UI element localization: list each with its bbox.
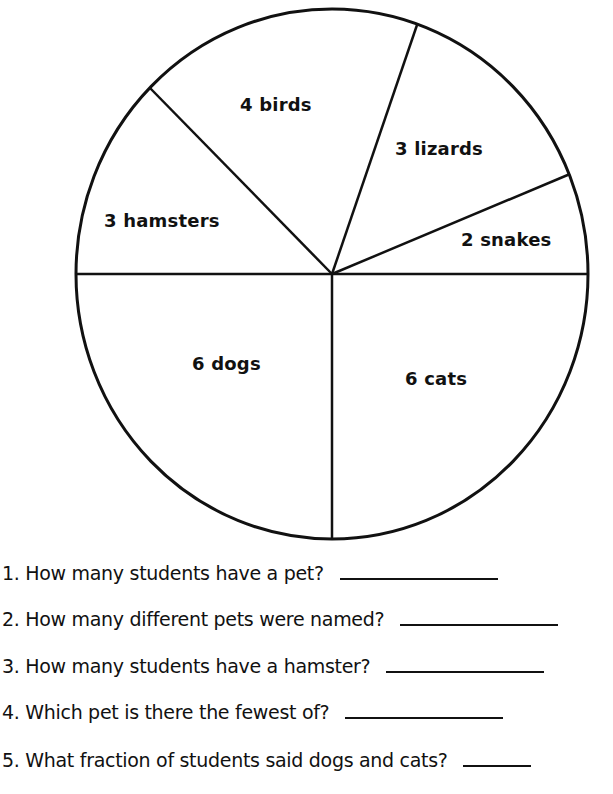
slice-label-lizards: 3 lizards [395,138,483,159]
question-1: 1. How many students have a pet? [2,562,498,584]
answer-blank-3[interactable] [386,670,544,673]
question-number: 2. [2,608,20,630]
question-text: How many students have a hamster? [25,655,370,677]
slice-label-hamsters: 3 hamsters [104,210,220,231]
slice-label-cats: 6 cats [405,368,467,389]
question-5: 5. What fraction of students said dogs a… [2,749,531,771]
slice-label-dogs: 6 dogs [192,353,261,374]
question-text: What fraction of students said dogs and … [25,749,447,771]
slice-label-birds: 4 birds [240,94,312,115]
question-number: 3. [2,655,20,677]
answer-blank-5[interactable] [463,764,531,767]
answer-blank-4[interactable] [345,716,503,719]
question-4: 4. Which pet is there the fewest of? [2,701,503,723]
answer-blank-1[interactable] [340,577,498,580]
question-text: How many students have a pet? [25,562,323,584]
question-text: How many different pets were named? [25,608,384,630]
question-3: 3. How many students have a hamster? [2,655,544,677]
answer-blank-2[interactable] [400,623,558,626]
question-number: 5. [2,749,20,771]
pie-chart [0,0,613,560]
question-number: 4. [2,701,20,723]
slice-label-snakes: 2 snakes [461,229,551,250]
question-number: 1. [2,562,20,584]
question-2: 2. How many different pets were named? [2,608,558,630]
question-text: Which pet is there the fewest of? [25,701,329,723]
